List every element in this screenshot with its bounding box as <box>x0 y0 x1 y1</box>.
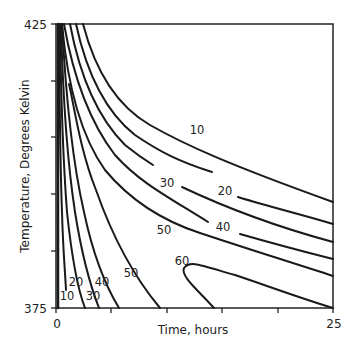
contour-label: 60 <box>175 254 190 268</box>
contour-40-lower <box>62 24 119 308</box>
x-tick-label-right: 25 <box>326 317 341 331</box>
contour-lines <box>58 24 333 308</box>
contour-10-upper <box>83 24 333 202</box>
contour-label: 50 <box>124 266 139 280</box>
contour-20-upper-a <box>76 24 212 172</box>
y-tick-label-top: 425 <box>24 18 47 32</box>
contour-40-upper-a <box>64 24 208 222</box>
contour-label: 10 <box>60 289 75 303</box>
x-axis-title: Time, hours <box>157 323 229 337</box>
contour-labels: 10 30 20 40 50 60 10 20 30 40 50 <box>60 123 233 303</box>
contour-60-region <box>183 264 333 308</box>
y-tick-label-bottom: 375 <box>24 302 47 316</box>
y-axis-title: Temperature, Degrees Kelvin <box>18 79 32 253</box>
contour-20-upper-b <box>238 197 333 224</box>
contour-label: 10 <box>190 123 205 137</box>
contour-label: 20 <box>69 275 84 289</box>
contour-label: 30 <box>86 289 101 303</box>
contour-label: 30 <box>160 176 175 190</box>
contour-label: 40 <box>216 220 231 234</box>
x-tick-label-left: 0 <box>53 317 61 331</box>
contour-label: 40 <box>95 275 110 289</box>
contour-chart: 425 375 0 25 Time, hours Temperature, De… <box>0 0 355 356</box>
contour-label: 20 <box>218 184 233 198</box>
contour-label: 50 <box>157 223 172 237</box>
